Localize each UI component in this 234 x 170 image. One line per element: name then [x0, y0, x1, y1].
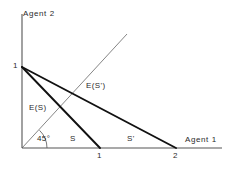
set-label-s: S [70, 135, 76, 143]
y-axis-tick-1: 1 [13, 62, 18, 70]
x-axis-title: Agent 1 [185, 136, 217, 144]
x-axis-tick-2: 2 [173, 152, 178, 160]
equilibrium-label-s-prime: E(S') [86, 82, 106, 90]
set-label-s-prime: S' [127, 135, 135, 143]
x-axis-tick-1: 1 [97, 152, 102, 160]
diagram-canvas [0, 0, 234, 170]
bargaining-set-diagram: Agent 2 Agent 1 1 1 2 45° S S' E(S) E(S'… [0, 0, 234, 170]
y-axis-title: Agent 2 [23, 10, 55, 18]
forty-five-degree-line [22, 34, 127, 148]
angle-label: 45° [37, 135, 50, 143]
equilibrium-label-s: E(S) [29, 104, 47, 112]
